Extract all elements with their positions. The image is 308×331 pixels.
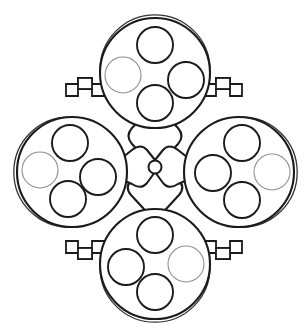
bore-left-4	[22, 152, 58, 188]
bore-right-3	[224, 182, 260, 218]
bore-top-2	[168, 62, 204, 98]
bore-left-3	[50, 181, 86, 217]
drum-bottom	[100, 209, 210, 322]
bore-bottom-2	[108, 249, 144, 285]
bore-right-2	[195, 155, 231, 191]
bore-bottom-4	[168, 246, 204, 282]
bore-right-4	[254, 154, 290, 190]
bore-right-1	[224, 125, 260, 161]
mechanism-diagram	[0, 0, 308, 331]
bore-top-1	[137, 27, 173, 63]
drum-left	[14, 117, 127, 227]
bore-bottom-1	[137, 217, 173, 253]
bore-top-4	[105, 57, 141, 93]
hub-pivot-circle	[149, 161, 162, 174]
drum-right	[184, 117, 297, 227]
bore-top-3	[137, 85, 173, 121]
bore-left-1	[52, 125, 88, 161]
bore-left-2	[80, 159, 116, 195]
drum-top	[100, 15, 210, 128]
bore-bottom-3	[137, 274, 173, 310]
mechanism-drawing	[0, 0, 308, 331]
